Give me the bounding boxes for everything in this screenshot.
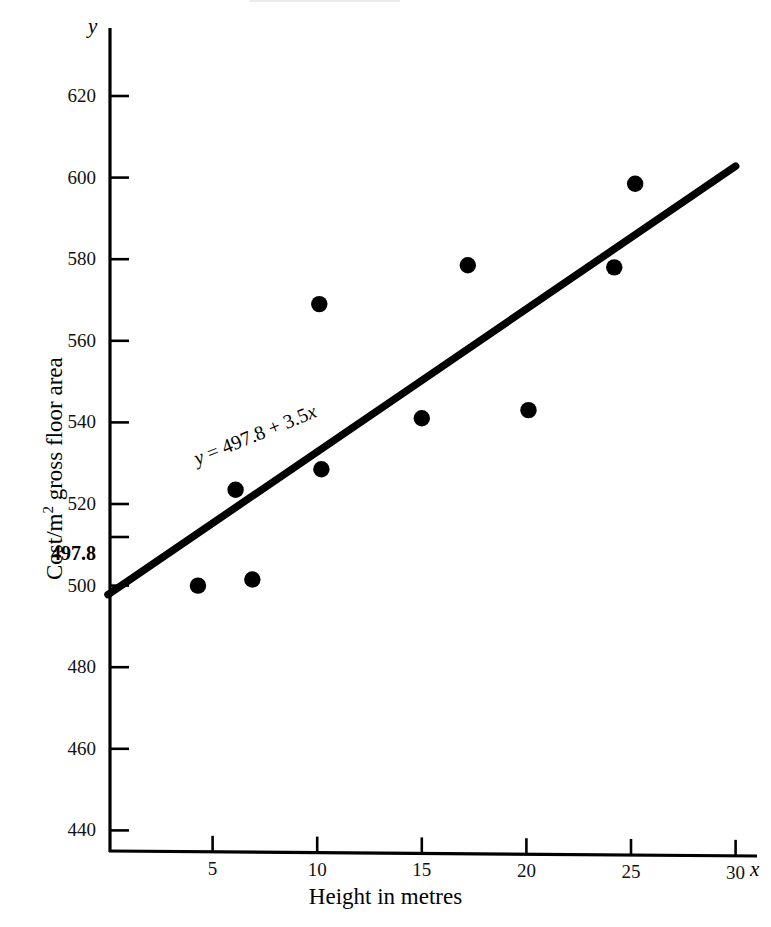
x-axis-title-text: Height in metres xyxy=(309,884,462,909)
data-point xyxy=(190,577,206,593)
x-tick-label: 20 xyxy=(517,860,536,882)
x-tick-label: 10 xyxy=(308,859,327,881)
x-axis-variable-label: x xyxy=(750,857,759,882)
data-point xyxy=(244,571,260,587)
x-tick-label: 30 xyxy=(726,862,745,884)
scatter-chart: 440460480500520540560580600620 510152025… xyxy=(0,0,771,927)
x-tick-label: 25 xyxy=(622,861,641,883)
data-point xyxy=(520,402,536,418)
x-tick-label: 5 xyxy=(208,858,218,880)
y-axis-title-suffix: gross floor area xyxy=(42,357,67,506)
data-point xyxy=(460,257,476,273)
y-axis-title-prefix: Cost/m xyxy=(42,514,67,580)
data-point xyxy=(627,176,643,192)
x-axis-title: Height in metres xyxy=(0,884,771,910)
x-axis-line xyxy=(109,851,757,856)
data-point xyxy=(414,410,430,426)
y-tick-label: 580 xyxy=(0,248,96,270)
y-axis-ticks xyxy=(110,96,129,830)
x-tick-label: 15 xyxy=(412,859,431,881)
y-tick-label: 600 xyxy=(0,167,96,189)
data-point xyxy=(311,296,327,312)
regression-line xyxy=(108,166,736,594)
y-axis-title: Cost/m2 gross floor area xyxy=(40,357,68,580)
y-axis-variable-label: y xyxy=(88,14,97,39)
y-tick-label: 560 xyxy=(0,330,96,352)
regression-line-path xyxy=(108,166,736,594)
y-tick-label: 480 xyxy=(0,656,96,678)
y-tick-label: 620 xyxy=(0,85,96,107)
plot-canvas xyxy=(0,0,771,927)
y-axis-title-exponent: 2 xyxy=(40,506,56,513)
y-tick-label: 460 xyxy=(0,738,96,760)
y-tick-label: 440 xyxy=(0,819,96,841)
data-point xyxy=(227,482,243,498)
data-point xyxy=(606,259,622,275)
data-point xyxy=(313,461,329,477)
